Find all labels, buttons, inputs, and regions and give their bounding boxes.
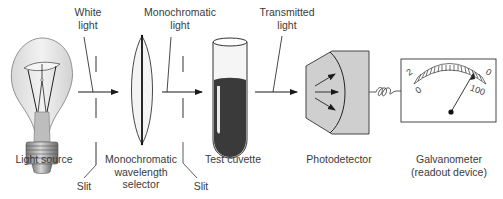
wavelength-selector-lens: [132, 35, 153, 145]
slit-2: [183, 56, 197, 178]
white-light-leader: [84, 37, 93, 92]
coil-wire-icon: [369, 88, 401, 96]
wavelength-selector-label: Monochromatic wavelength selector: [103, 153, 179, 191]
photodetector: [306, 51, 369, 134]
test-cuvette-label: Test cuvette: [198, 153, 268, 166]
needle-pivot: [448, 109, 453, 114]
photodetector-label: Photodetector: [299, 153, 379, 166]
monochromatic-light-label: Monochromatic light: [140, 6, 220, 31]
slit-2-label: Slit: [189, 180, 213, 193]
white-light-label: White light: [73, 6, 103, 31]
transmitted-light-label: Transmitted light: [252, 6, 322, 31]
monochromatic-light-leader: [167, 37, 171, 92]
slit-1-label: Slit: [72, 180, 96, 193]
light-source-label: Light source: [8, 153, 80, 166]
galvanometer-label: Galvanometer (readout device): [404, 153, 494, 178]
transmitted-light-leader: [273, 36, 282, 92]
test-cuvette: [213, 38, 247, 158]
